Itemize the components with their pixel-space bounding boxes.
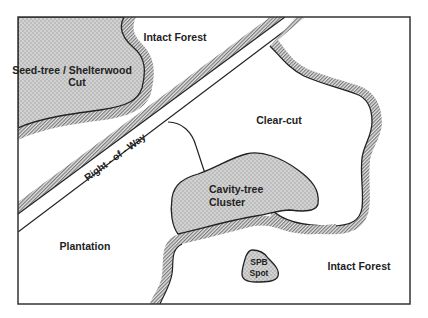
label-spb-spot: Spot (250, 268, 269, 278)
label-spb: SPB (250, 257, 267, 267)
label-cavity-cluster: Cluster (209, 196, 245, 208)
label-plantation: Plantation (60, 240, 111, 252)
cavity-tree-cluster-region (150, 153, 336, 304)
label-clear-cut: Clear-cut (256, 114, 302, 126)
label-intact-forest-top: Intact Forest (143, 31, 207, 43)
label-seed-tree-cut: Cut (68, 76, 86, 88)
label-intact-forest-bottom: Intact Forest (327, 260, 391, 272)
label-cavity-tree: Cavity-tree (209, 183, 263, 195)
label-seed-tree: Seed-tree / Shelterwood (12, 64, 132, 76)
forest-map-diagram: Seed-tree / Shelterwood Cut Intact Fores… (0, 0, 428, 318)
